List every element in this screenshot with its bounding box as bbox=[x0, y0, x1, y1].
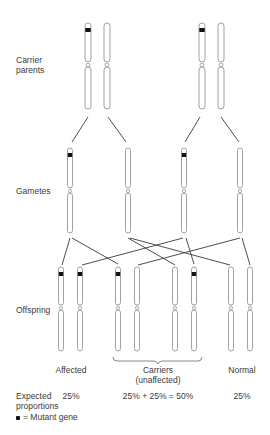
gamete-chromosome-4 bbox=[238, 148, 243, 233]
gamete-to-offspring-lines bbox=[62, 238, 250, 265]
genetics-diagram: Carrier parents Gametes Offspring Affect… bbox=[0, 0, 270, 435]
mutant-gene-marker bbox=[68, 153, 72, 157]
carrier-parents-line2: parents bbox=[16, 65, 44, 75]
parent-chromosome-3 bbox=[199, 23, 205, 109]
expected-line1: Expected bbox=[16, 391, 59, 401]
proportion-carriers: 25% + 25% = 50% bbox=[123, 391, 193, 401]
mutant-gene-marker bbox=[59, 272, 63, 276]
mutant-gene-marker bbox=[116, 272, 120, 276]
parent-to-gamete-lines bbox=[72, 117, 239, 142]
row-label-carrier-parents: Carrier parents bbox=[16, 55, 44, 75]
carriers-brace bbox=[113, 357, 202, 364]
parent-chromosome-2 bbox=[104, 23, 110, 109]
legend: = Mutant gene bbox=[16, 412, 78, 422]
offspring-chromosome-3 bbox=[116, 267, 121, 351]
carriers-line2: (unaffected) bbox=[135, 375, 180, 385]
carriers-line1: Carriers bbox=[135, 365, 180, 375]
offspring-chromosome-7 bbox=[229, 267, 234, 351]
gamete-chromosome-3 bbox=[182, 148, 187, 233]
carrier-parents-line1: Carrier bbox=[16, 55, 44, 65]
category-affected: Affected bbox=[55, 365, 86, 375]
offspring-chromosome-2 bbox=[78, 267, 83, 351]
gamete-chromosome-2 bbox=[126, 148, 131, 233]
offspring-chromosomes bbox=[59, 267, 253, 351]
mutant-gene-marker bbox=[192, 272, 196, 276]
row-label-gametes: Gametes bbox=[16, 186, 51, 196]
proportion-affected: 25% bbox=[62, 391, 79, 401]
mutant-gene-icon bbox=[16, 416, 20, 420]
row-label-offspring: Offspring bbox=[16, 305, 50, 315]
offspring-chromosome-1 bbox=[59, 267, 64, 351]
gamete-chromosomes bbox=[68, 148, 243, 233]
mutant-gene-marker bbox=[182, 153, 186, 157]
offspring-chromosome-8 bbox=[248, 267, 253, 351]
category-normal: Normal bbox=[228, 365, 255, 375]
mutant-gene-marker bbox=[85, 28, 90, 32]
parent-chromosome-1 bbox=[85, 23, 91, 109]
gamete-chromosome-1 bbox=[68, 148, 73, 233]
expected-proportions-label: Expected proportions bbox=[16, 391, 59, 411]
expected-line2: proportions bbox=[16, 401, 59, 411]
offspring-chromosome-4 bbox=[135, 267, 140, 351]
category-carriers: Carriers (unaffected) bbox=[135, 365, 180, 385]
legend-text: = Mutant gene bbox=[23, 412, 78, 422]
mutant-gene-marker bbox=[199, 28, 204, 32]
parent-chromosomes bbox=[85, 23, 224, 109]
offspring-chromosome-5 bbox=[173, 267, 178, 351]
offspring-chromosome-6 bbox=[192, 267, 197, 351]
mutant-gene-marker bbox=[78, 272, 82, 276]
parent-chromosome-4 bbox=[218, 23, 224, 109]
proportion-normal: 25% bbox=[233, 391, 250, 401]
